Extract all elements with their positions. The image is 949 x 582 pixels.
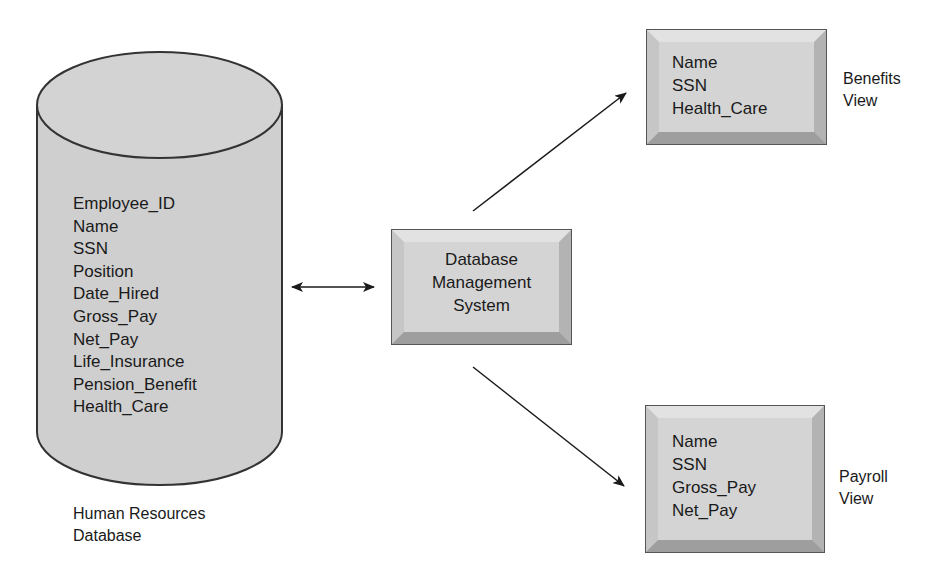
- database-field: Life_Insurance: [73, 351, 197, 374]
- database-field-list: Employee_ID Name SSN Position Date_Hired…: [73, 193, 197, 419]
- database-field: Net_Pay: [73, 329, 197, 352]
- payroll-view-label-line2: View: [839, 488, 888, 510]
- dbms-label-line2: Management: [392, 271, 571, 294]
- dbms-label: Database Management System: [392, 248, 571, 317]
- benefits-view-label-line2: View: [843, 90, 901, 112]
- benefits-view-box: Name SSN Health_Care: [646, 29, 827, 145]
- benefits-view-label-line1: Benefits: [843, 68, 901, 90]
- payroll-view-box: Name SSN Gross_Pay Net_Pay: [645, 405, 825, 553]
- database-label-line2: Database: [73, 525, 206, 547]
- database-field: Health_Care: [73, 396, 197, 419]
- payroll-view-label: Payroll View: [839, 466, 888, 510]
- dbms-box: Database Management System: [391, 229, 572, 345]
- database-field: Date_Hired: [73, 283, 197, 306]
- payroll-view-field: Net_Pay: [672, 499, 756, 522]
- database-field: Pension_Benefit: [73, 374, 197, 397]
- dbms-label-line1: Database: [392, 248, 571, 271]
- database-label-line1: Human Resources: [73, 503, 206, 525]
- payroll-view-field: Name: [672, 430, 756, 453]
- arrow-to-payroll-icon: [473, 367, 624, 486]
- database-field: Name: [73, 216, 197, 239]
- database-field: SSN: [73, 238, 197, 261]
- benefits-view-field: Name: [672, 51, 767, 74]
- dbms-label-line3: System: [392, 294, 571, 317]
- database-label: Human Resources Database: [73, 503, 206, 547]
- payroll-view-field-list: Name SSN Gross_Pay Net_Pay: [672, 430, 756, 522]
- database-field: Employee_ID: [73, 193, 197, 216]
- benefits-view-field: Health_Care: [672, 97, 767, 120]
- payroll-view-field: Gross_Pay: [672, 476, 756, 499]
- payroll-view-field: SSN: [672, 453, 756, 476]
- benefits-view-field: SSN: [672, 74, 767, 97]
- benefits-view-label: Benefits View: [843, 68, 901, 112]
- database-field: Gross_Pay: [73, 306, 197, 329]
- benefits-view-field-list: Name SSN Health_Care: [672, 51, 767, 120]
- payroll-view-label-line1: Payroll: [839, 466, 888, 488]
- arrow-to-benefits-icon: [473, 93, 626, 211]
- database-field: Position: [73, 261, 197, 284]
